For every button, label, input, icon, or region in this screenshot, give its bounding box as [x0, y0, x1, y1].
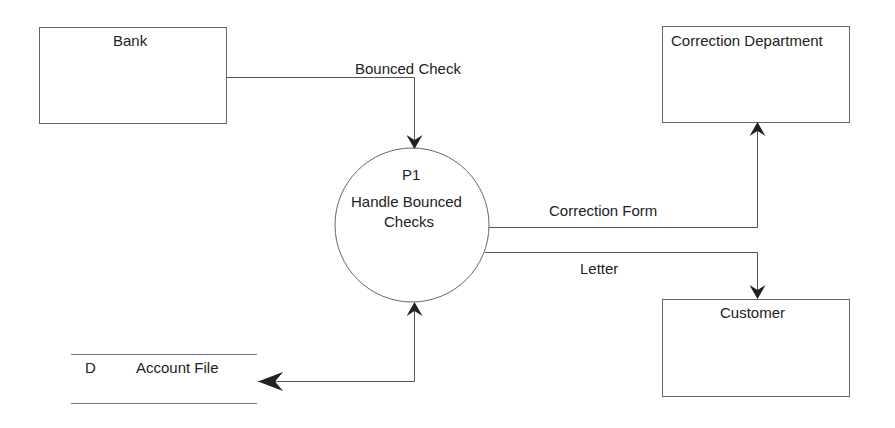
flow-account-file-arrow: [258, 303, 415, 382]
process-number-label: P1: [402, 167, 420, 182]
correction-department-entity-label: Correction Department: [671, 33, 823, 48]
flow-label-letter: Letter: [580, 261, 618, 276]
process-name-line2: Checks: [384, 214, 434, 229]
customer-entity-label: Customer: [720, 305, 785, 320]
flow-label-correction-form: Correction Form: [549, 203, 657, 218]
bank-entity-label: Bank: [113, 33, 147, 48]
flow-label-bounced-check: Bounced Check: [355, 61, 461, 76]
flow-bounced-check-arrow: [226, 78, 415, 149]
data-store-id-label: D: [85, 360, 96, 375]
flow-letter-arrow: [485, 253, 758, 299]
process-name-line1: Handle Bounced: [351, 194, 462, 209]
data-store-name-label: Account File: [136, 360, 219, 375]
